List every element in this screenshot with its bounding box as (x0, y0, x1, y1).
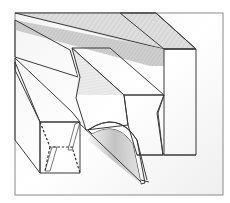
diagram-canvas (0, 0, 230, 203)
woodworking-illustration (0, 0, 230, 203)
